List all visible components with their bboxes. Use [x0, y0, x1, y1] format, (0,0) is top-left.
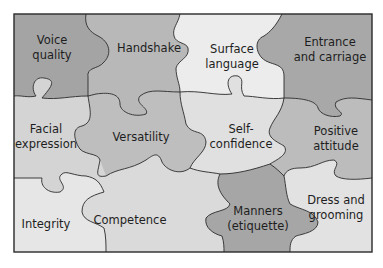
- label-voice-quality: Voice quality: [32, 33, 71, 63]
- label-line: quality: [32, 48, 71, 63]
- label-line: Facial: [15, 122, 77, 137]
- label-line: Entrance: [294, 35, 367, 50]
- label-line: confidence: [210, 137, 273, 152]
- label-line: (etiquette): [227, 219, 289, 234]
- label-line: and carriage: [294, 50, 367, 65]
- label-self-confidence: Self- confidence: [210, 122, 273, 152]
- label-line: Versatility: [112, 130, 169, 145]
- label-surface-language: Surface language: [205, 42, 259, 72]
- label-line: Surface: [205, 42, 259, 57]
- label-entrance-and-carriage: Entrance and carriage: [294, 35, 367, 65]
- label-positive-attitude: Positive attitude: [313, 124, 358, 154]
- label-line: Voice: [32, 33, 71, 48]
- label-line: attitude: [313, 139, 358, 154]
- label-line: language: [205, 57, 259, 72]
- label-manners-etiquette: Manners (etiquette): [227, 204, 289, 234]
- label-line: Positive: [313, 124, 358, 139]
- label-line: Competence: [94, 213, 167, 228]
- label-line: Dress and: [307, 193, 365, 208]
- label-line: Handshake: [117, 41, 181, 56]
- label-line: Integrity: [22, 217, 71, 232]
- label-line: grooming: [307, 208, 365, 223]
- label-versatility: Versatility: [112, 130, 169, 145]
- label-line: expression: [15, 137, 77, 152]
- label-facial-expression: Facial expression: [15, 122, 77, 152]
- label-line: Manners: [227, 204, 289, 219]
- label-handshake: Handshake: [117, 41, 181, 56]
- label-integrity: Integrity: [22, 217, 71, 232]
- label-dress-and-grooming: Dress and grooming: [307, 193, 365, 223]
- label-line: Self-: [210, 122, 273, 137]
- label-competence: Competence: [94, 213, 167, 228]
